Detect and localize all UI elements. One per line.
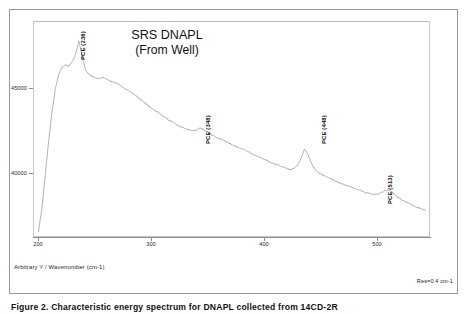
ytick-label-40000: 40000 (0, 170, 27, 176)
figure-caption: Figure 2. Characteristic energy spectrum… (11, 302, 451, 312)
chart-title: SRS DNAPL (From Well) (97, 28, 237, 58)
spectrum-trace (38, 41, 425, 231)
xtick-label-400: 400 (259, 241, 269, 247)
ytick-mark-45000 (29, 88, 33, 89)
x-axis-line (33, 237, 431, 238)
xtick-label-300: 300 (146, 241, 156, 247)
peak-label-pce-236: PCE (236) (80, 31, 86, 60)
axis-caption: Arbitrary Y / Wavenumber (cm-1) (14, 264, 105, 270)
chart-title-sub: (From Well) (97, 43, 237, 58)
xtick-label-200: 200 (33, 241, 43, 247)
resolution-note: Res=0.4 cm-1 (417, 278, 453, 284)
peak-label-pce-348: PCE (348) (205, 115, 211, 144)
ytick-label-45000: 45000 (0, 85, 27, 91)
chart-title-main: SRS DNAPL (97, 28, 237, 43)
figure-caption-label: Figure 2. (11, 302, 49, 312)
figure-root: SRS DNAPL (From Well) 45000 40000 200 30… (0, 0, 469, 314)
figure-caption-text: Characteristic energy spectrum for DNAPL… (51, 302, 338, 312)
peak-label-pce-448: PCE (448) (321, 115, 327, 144)
peak-label-pce-513: PCE (513) (387, 175, 393, 204)
xtick-label-500: 500 (372, 241, 382, 247)
ytick-mark-40000 (29, 173, 33, 174)
